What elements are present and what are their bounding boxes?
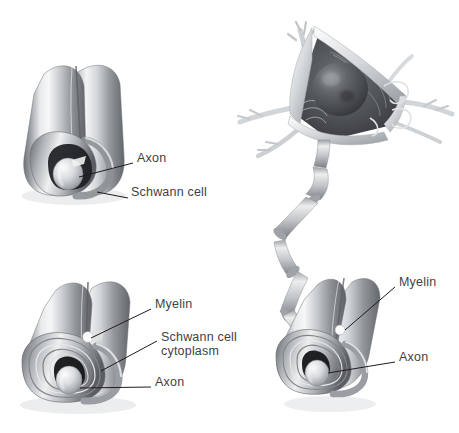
label-myelin-right: Myelin xyxy=(399,275,436,289)
soma-nucleus xyxy=(312,62,368,116)
label-axon-bottom-left: Axon xyxy=(155,375,184,389)
bl-axon-core xyxy=(56,366,82,394)
label-axon-top-left: Axon xyxy=(137,151,166,165)
panel-single-wrap-schwann-cell xyxy=(22,65,133,205)
r-ground-shadow xyxy=(284,396,376,412)
label-schwann-cell-cytoplasm-line2: cytoplasm xyxy=(161,344,219,359)
r-myelin-tongue xyxy=(335,325,345,335)
myelination-diagram xyxy=(0,0,459,433)
label-axon-right: Axon xyxy=(399,350,428,364)
nucleus-highlight xyxy=(322,72,340,86)
label-myelin-bottom-left: Myelin xyxy=(155,297,192,311)
label-schwann-cell-top-left: Schwann cell xyxy=(131,185,207,199)
label-schwann-cell-cytoplasm-line1: Schwann cell xyxy=(161,330,237,345)
bl-myelin-tongue xyxy=(83,332,94,343)
nucleolus xyxy=(340,90,354,102)
